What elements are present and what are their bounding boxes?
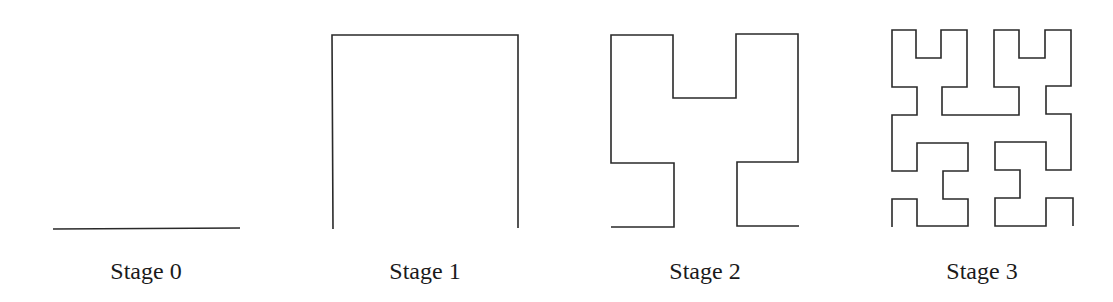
stage-0-curve	[53, 228, 240, 229]
stage-1-curve	[332, 35, 518, 229]
stage-0-label: Stage 0	[110, 258, 181, 285]
stage-2-label: Stage 2	[669, 258, 740, 285]
stage-3-curve	[892, 30, 1073, 227]
stage-2-curve	[611, 34, 799, 227]
stage-1-label: Stage 1	[389, 258, 460, 285]
hilbert-diagram	[0, 0, 1113, 302]
stage-3-label: Stage 3	[946, 258, 1017, 285]
